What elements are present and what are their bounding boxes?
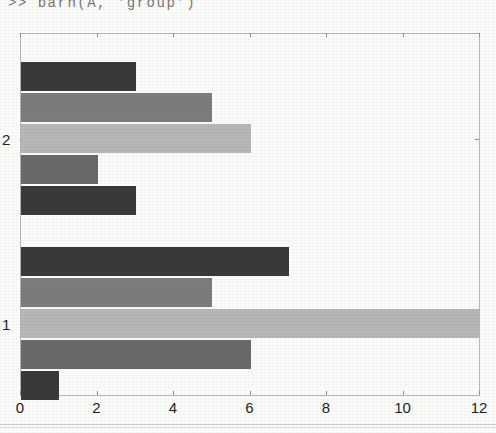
xtick-mark-top	[173, 33, 174, 37]
ytick-mark-right	[475, 139, 479, 140]
xtick-label-12: 12	[471, 399, 488, 416]
xtick-mark-top	[479, 33, 480, 37]
page-rule-top	[0, 424, 496, 425]
xtick-mark-bottom	[250, 391, 251, 395]
axis-bottom-spine	[20, 395, 480, 396]
axis-right-spine	[479, 33, 480, 396]
bar-group-1-series-3	[21, 309, 480, 338]
bar-chart-plot-area	[20, 33, 480, 396]
xtick-mark-top	[250, 33, 251, 37]
bar-group-2-series-4	[21, 155, 98, 184]
ytick-label-1: 1	[2, 315, 10, 332]
xtick-label-10: 10	[394, 399, 411, 416]
page-rule-bottom	[0, 427, 496, 428]
xtick-mark-bottom	[97, 391, 98, 395]
bar-group-1-series-5	[21, 371, 59, 400]
xtick-mark-bottom	[479, 391, 480, 395]
bar-group-1-series-1	[21, 247, 289, 276]
scanned-page: >> barh(A, 'group') 02468101212	[0, 0, 496, 433]
bar-group-1-series-2	[21, 278, 212, 307]
xtick-label-0: 0	[16, 399, 24, 416]
xtick-mark-top	[97, 33, 98, 37]
xtick-label-6: 6	[245, 399, 253, 416]
bar-group-2-series-5	[21, 186, 136, 215]
bar-group-2-series-1	[21, 62, 136, 91]
xtick-mark-top	[326, 33, 327, 37]
xtick-mark-bottom	[403, 391, 404, 395]
matlab-command-line: >> barh(A, 'group')	[8, 0, 196, 15]
bar-group-1-series-4	[21, 340, 251, 369]
xtick-mark-top	[20, 33, 21, 37]
bar-group-2-series-3	[21, 124, 251, 153]
xtick-mark-bottom	[326, 391, 327, 395]
xtick-label-4: 4	[169, 399, 177, 416]
ytick-label-2: 2	[2, 130, 10, 147]
xtick-mark-bottom	[173, 391, 174, 395]
xtick-label-2: 2	[92, 399, 100, 416]
xtick-mark-top	[403, 33, 404, 37]
xtick-label-8: 8	[322, 399, 330, 416]
bar-group-2-series-2	[21, 93, 212, 122]
